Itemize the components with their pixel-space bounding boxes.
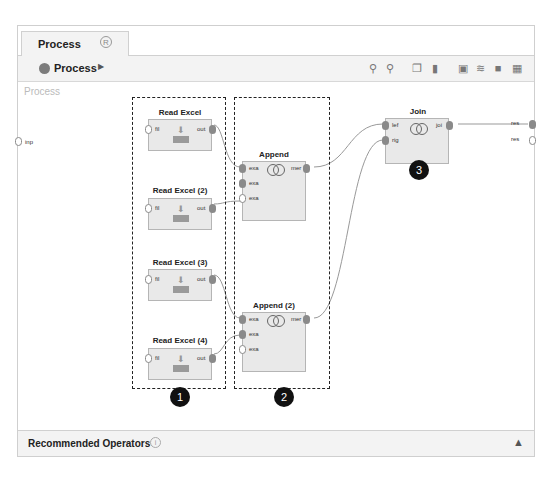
breadcrumb-arrow-icon[interactable]: ▶ <box>98 62 104 71</box>
process-canvas[interactable]: Process inp res res Read Excel <box>18 82 534 432</box>
layers-icon[interactable]: ■ <box>491 61 505 75</box>
operator-join[interactable]: lef rig joi <box>385 118 449 164</box>
merge-icon <box>267 164 285 177</box>
input-port[interactable] <box>239 194 246 203</box>
operator-title: Append <box>224 150 324 159</box>
process-input-port[interactable] <box>15 137 22 146</box>
port-label: exa <box>249 331 259 337</box>
input-port[interactable] <box>239 164 246 173</box>
output-port[interactable] <box>446 121 453 130</box>
step-badge-1: 1 <box>170 387 190 407</box>
operator-title: Read Excel (4) <box>130 336 230 345</box>
zoom-in-icon[interactable]: ⚲ <box>366 61 380 75</box>
join-icon <box>410 123 428 136</box>
excel-icon: ⬇ <box>173 126 189 144</box>
operator-title: Append (2) <box>224 301 324 310</box>
operator-title: Join <box>368 107 468 116</box>
recommended-operators-label: Recommended Operators <box>28 438 150 449</box>
output-port[interactable] <box>209 275 216 284</box>
excel-icon: ⬇ <box>173 276 189 294</box>
port-label: exa <box>249 195 259 201</box>
output-port[interactable] <box>303 164 310 173</box>
zoom-out-icon[interactable]: ⚲ <box>383 61 397 75</box>
add-note-icon[interactable]: ▣ <box>456 61 470 75</box>
process-output-port[interactable] <box>529 120 536 129</box>
input-port[interactable] <box>145 125 152 134</box>
input-port[interactable] <box>145 204 152 213</box>
input-port[interactable] <box>239 330 246 339</box>
operator-append[interactable]: exa exa exa mer <box>242 161 306 221</box>
operator-read-excel-2[interactable]: fil ⬇ out <box>148 198 212 230</box>
port-label: mer <box>291 165 301 171</box>
port-label: inp <box>25 139 33 145</box>
port-label: mer <box>291 316 301 322</box>
input-port[interactable] <box>239 315 246 324</box>
output-port[interactable] <box>209 204 216 213</box>
port-label: out <box>197 126 205 132</box>
port-label: fil <box>155 205 159 211</box>
copy-icon[interactable]: ❐ <box>410 61 424 75</box>
merge-icon <box>267 315 285 328</box>
tab-label: Process <box>38 38 81 50</box>
port-label: rig <box>392 137 399 143</box>
fit-icon[interactable]: ▦ <box>510 61 524 75</box>
breadcrumb[interactable]: Process <box>54 62 97 74</box>
port-label: joi <box>436 122 442 128</box>
port-label: exa <box>249 316 259 322</box>
operator-read-excel[interactable]: fil ⬇ out <box>148 119 212 151</box>
input-port[interactable] <box>239 179 246 188</box>
operator-title: Read Excel (3) <box>130 258 230 267</box>
port-label: out <box>197 205 205 211</box>
info-icon[interactable]: i <box>150 437 161 448</box>
excel-icon: ⬇ <box>173 355 189 373</box>
port-label: res <box>511 136 519 142</box>
restore-icon[interactable]: R <box>100 36 112 48</box>
port-label: res <box>511 120 519 126</box>
process-toolbar: Process ▶ ⚲ ⚲ ❐ ▮ ▣ ≋ ■ ▦ <box>18 56 534 82</box>
auto-wire-icon[interactable]: ≋ <box>473 61 487 75</box>
input-port[interactable] <box>145 275 152 284</box>
operator-title: Read Excel <box>130 108 230 117</box>
input-port[interactable] <box>382 121 389 130</box>
port-label: out <box>197 355 205 361</box>
port-label: fil <box>155 276 159 282</box>
recommended-operators-bar[interactable]: Recommended Operators i ▲ <box>18 430 534 456</box>
port-label: out <box>197 276 205 282</box>
port-label: fil <box>155 126 159 132</box>
operator-title: Read Excel (2) <box>130 186 230 195</box>
output-port[interactable] <box>209 125 216 134</box>
port-label: fil <box>155 355 159 361</box>
operator-append-2[interactable]: exa exa exa mer <box>242 312 306 372</box>
process-panel: Process R Process ▶ ⚲ ⚲ ❐ ▮ ▣ ≋ ■ ▦ Proc… <box>17 25 535 457</box>
port-label: exa <box>249 180 259 186</box>
paste-icon[interactable]: ▮ <box>428 61 442 75</box>
port-label: lef <box>392 122 398 128</box>
step-badge-2: 2 <box>274 387 294 407</box>
input-port[interactable] <box>145 354 152 363</box>
input-port[interactable] <box>382 136 389 145</box>
tab-process[interactable]: Process R <box>21 31 129 57</box>
port-label: exa <box>249 346 259 352</box>
port-label: exa <box>249 165 259 171</box>
excel-icon: ⬇ <box>173 205 189 223</box>
operator-read-excel-3[interactable]: fil ⬇ out <box>148 269 212 301</box>
chevron-up-icon[interactable]: ▲ <box>513 436 524 448</box>
process-output-port[interactable] <box>529 136 536 145</box>
step-badge-3: 3 <box>409 160 429 180</box>
input-port[interactable] <box>239 345 246 354</box>
output-port[interactable] <box>303 315 310 324</box>
tab-bar: Process R <box>18 26 534 56</box>
output-port[interactable] <box>209 354 216 363</box>
operator-read-excel-4[interactable]: fil ⬇ out <box>148 348 212 380</box>
process-status-icon <box>39 63 50 74</box>
